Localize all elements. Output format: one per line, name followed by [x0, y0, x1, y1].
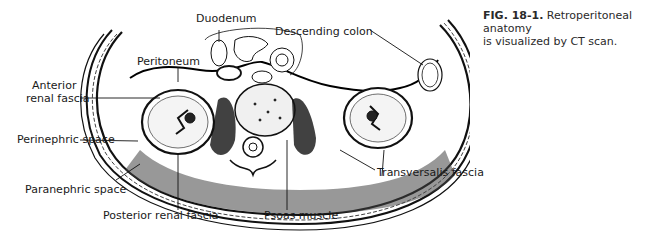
label-anterior-renal-fascia-line1: Anterior: [32, 80, 76, 92]
label-peritoneum: Peritoneum: [137, 56, 200, 68]
label-transversalis-fascia: Transversalis fascia: [377, 167, 484, 179]
retroperitoneum-cross-section-illustration: [0, 0, 470, 240]
label-paranephric-space: Paranephric space: [25, 184, 126, 196]
vertebra: [230, 84, 295, 175]
label-posterior-renal-fascia: Posterior renal fascia: [103, 210, 219, 222]
label-psoas-muscle: Psoas muscle: [264, 210, 338, 222]
caption-text-line2: is visualized by CT scan.: [483, 35, 617, 48]
right-psoas: [292, 98, 316, 155]
small-bowel-loop: [270, 48, 294, 72]
label-descending-colon: Descending colon: [275, 26, 373, 38]
right-kidney: [344, 88, 412, 148]
label-anterior-renal-fascia-line2: renal fascia: [26, 93, 90, 105]
anatomy-figure: Duodenum Descending colon Peritoneum Ant…: [0, 0, 470, 240]
left-kidney: [142, 90, 214, 154]
duodenum-loop: [211, 40, 227, 66]
figure-number: FIG. 18-1.: [483, 9, 543, 22]
label-perinephric-space: Perinephric space: [17, 134, 115, 146]
left-psoas: [210, 98, 236, 155]
figure-caption: FIG. 18-1. Retroperitoneal anatomy is vi…: [483, 9, 648, 48]
label-duodenum: Duodenum: [196, 13, 257, 25]
posterior-muscle-mass: [125, 150, 455, 214]
